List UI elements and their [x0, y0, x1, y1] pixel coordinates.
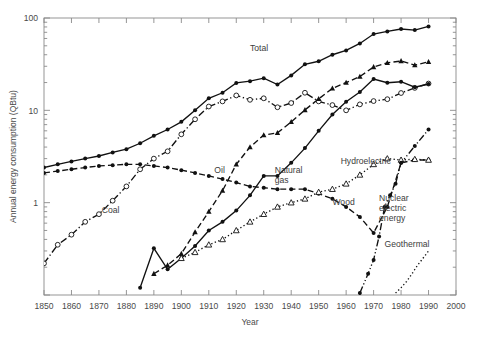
energy-consumption-chart: 1850186018701880189019001910192019301940… — [0, 0, 477, 340]
data-point — [165, 149, 170, 154]
data-point — [358, 215, 362, 219]
x-tick-label: 1850 — [34, 301, 53, 311]
data-point — [358, 291, 362, 295]
data-point — [399, 80, 403, 84]
data-point — [317, 59, 321, 63]
data-point — [234, 181, 238, 185]
data-point — [138, 141, 142, 145]
data-point — [399, 161, 403, 165]
data-point — [220, 236, 226, 241]
data-point — [138, 167, 143, 172]
data-point — [179, 132, 184, 137]
data-point — [262, 76, 266, 80]
data-point — [262, 186, 266, 190]
data-point — [385, 81, 389, 85]
data-point — [275, 83, 279, 87]
data-point — [221, 91, 225, 95]
data-point — [330, 85, 335, 90]
x-tick-label: 1860 — [62, 301, 81, 311]
data-point — [427, 128, 431, 132]
x-tick-label: 1920 — [227, 301, 246, 311]
series-label: Nuclear — [379, 193, 409, 203]
y-tick-label: 1 — [33, 198, 38, 208]
x-tick-label: 1940 — [282, 301, 301, 311]
data-point — [179, 120, 183, 124]
data-point — [192, 229, 197, 234]
data-point — [427, 82, 431, 86]
data-point — [138, 162, 142, 166]
data-point — [289, 73, 293, 77]
data-point — [377, 235, 381, 239]
data-point — [303, 187, 307, 191]
data-point — [220, 188, 225, 193]
data-point — [344, 108, 349, 113]
data-point — [111, 150, 115, 154]
series-label: Oil — [214, 165, 225, 175]
data-point — [192, 249, 198, 254]
data-point — [166, 267, 170, 271]
data-point — [399, 91, 404, 96]
x-tick-label: 1970 — [364, 301, 383, 311]
y-tick-label: 10 — [28, 106, 38, 116]
data-point — [221, 220, 225, 224]
data-point — [413, 144, 417, 148]
data-point — [110, 198, 115, 203]
data-point — [303, 62, 307, 66]
data-point — [193, 171, 197, 175]
data-point — [55, 242, 60, 247]
data-point — [343, 181, 349, 186]
data-point — [357, 172, 363, 177]
data-point — [372, 258, 376, 262]
data-point — [97, 164, 101, 168]
data-point — [152, 134, 156, 138]
data-point — [372, 77, 376, 81]
data-point — [288, 200, 294, 205]
data-point — [426, 59, 431, 64]
data-point — [234, 209, 238, 213]
series-coal — [42, 81, 431, 266]
data-point — [207, 174, 211, 178]
data-point — [372, 231, 376, 235]
x-tick-label: 1900 — [172, 301, 191, 311]
data-point — [385, 97, 390, 102]
series-line — [44, 160, 429, 233]
series-geothermal — [396, 251, 429, 293]
data-point — [372, 32, 376, 36]
data-point — [413, 85, 417, 89]
series-label: Wood — [332, 197, 355, 207]
data-point — [366, 272, 370, 276]
data-point — [371, 64, 376, 69]
data-point — [111, 163, 115, 167]
data-point — [221, 177, 225, 181]
data-point — [330, 186, 336, 191]
x-tick-label: 1880 — [117, 301, 136, 311]
series-label: gas — [275, 175, 289, 185]
series-label: energy — [379, 213, 406, 223]
series-label: electric — [379, 203, 407, 213]
data-point — [233, 227, 239, 232]
data-point — [247, 219, 253, 224]
x-axis-title: Year — [241, 317, 258, 327]
x-tick-label: 1870 — [89, 301, 108, 311]
series-label: Geothermal — [385, 239, 430, 249]
data-point — [42, 171, 46, 175]
data-point — [220, 99, 225, 104]
data-point — [151, 156, 156, 161]
data-point — [344, 48, 348, 52]
series-label: Total — [250, 43, 268, 53]
data-point — [394, 182, 398, 186]
series-label: Natural — [275, 165, 303, 175]
x-tick-label: 1930 — [254, 301, 273, 311]
data-point — [303, 146, 307, 150]
data-point — [42, 261, 47, 266]
series-line — [396, 251, 429, 293]
data-point — [385, 29, 389, 33]
data-point — [303, 90, 308, 95]
data-point — [206, 104, 211, 109]
series-label: Coal — [102, 205, 120, 215]
data-point — [344, 100, 348, 104]
data-point — [124, 184, 129, 189]
data-point — [261, 211, 267, 216]
x-tick-label: 1990 — [419, 301, 438, 311]
data-point — [358, 41, 362, 45]
